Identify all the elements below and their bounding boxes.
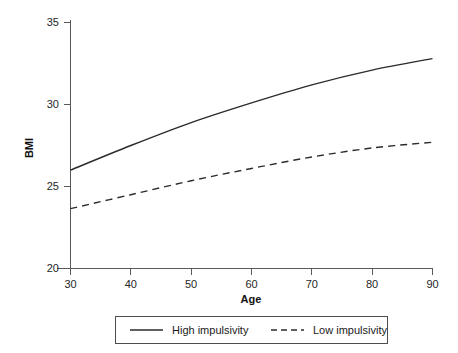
y-tick-label-20: 20 (47, 262, 59, 274)
bmi-by-age-line-chart: 35 30 25 20 BMI 30 40 50 60 70 80 90 Age… (0, 0, 458, 353)
y-tick-label-25: 25 (47, 180, 59, 192)
y-axis-title: BMI (23, 138, 35, 158)
x-tick-label-40: 40 (125, 278, 137, 290)
legend: High impulsivity Low impulsivity (116, 317, 388, 344)
x-tick-label-70: 70 (306, 278, 318, 290)
x-tick-label-50: 50 (185, 278, 197, 290)
x-tick-label-60: 60 (245, 278, 257, 290)
x-tick-label-30: 30 (64, 278, 76, 290)
chart-background (0, 0, 458, 353)
legend-label-low-impulsivity: Low impulsivity (313, 324, 387, 336)
legend-label-high-impulsivity: High impulsivity (172, 324, 249, 336)
x-axis-title: Age (241, 293, 262, 305)
x-tick-label-90: 90 (426, 278, 438, 290)
y-tick-label-30: 30 (47, 98, 59, 110)
x-tick-label-80: 80 (366, 278, 378, 290)
y-tick-label-35: 35 (47, 16, 59, 28)
